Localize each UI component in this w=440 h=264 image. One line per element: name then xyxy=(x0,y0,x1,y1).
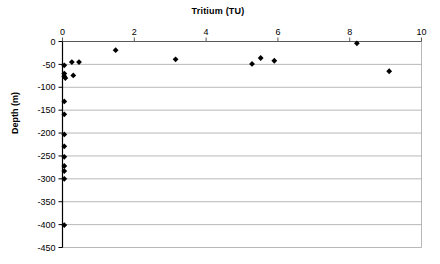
chart-container: Tritium (TU) Depth (m) 0246810 0-50-100-… xyxy=(0,0,440,264)
x-axis-tick-label: 8 xyxy=(347,27,352,37)
y-axis-tick-label: -400 xyxy=(37,220,55,230)
data-points-group xyxy=(61,40,392,228)
x-axis-tick-label: 6 xyxy=(275,27,280,37)
gridlines-group xyxy=(63,42,422,248)
y-axis-tick-label: -300 xyxy=(37,174,55,184)
x-axis-tick-label: 4 xyxy=(204,27,209,37)
y-axis-tick-label: -50 xyxy=(42,60,55,70)
scatter-plot: 0246810 0-50-100-150-200-250-300-350-400… xyxy=(0,0,440,264)
y-axis-tick-label: -350 xyxy=(37,197,55,207)
y-axis-ticks-group: 0-50-100-150-200-250-300-350-400-450 xyxy=(37,37,62,253)
y-axis-tick-label: -200 xyxy=(37,128,55,138)
data-point-marker xyxy=(386,68,392,74)
data-point-marker xyxy=(271,58,277,64)
y-axis-tick-label: -150 xyxy=(37,105,55,115)
data-point-marker xyxy=(173,56,179,62)
data-point-marker xyxy=(70,72,76,78)
data-point-marker xyxy=(113,47,119,53)
y-axis-tick-label: -250 xyxy=(37,151,55,161)
x-axis-tick-label: 10 xyxy=(416,27,426,37)
data-point-marker xyxy=(249,61,255,67)
data-point-marker xyxy=(258,55,264,61)
x-axis-tick-label: 0 xyxy=(60,27,65,37)
x-axis-ticks-group: 0246810 xyxy=(60,27,427,42)
y-axis-tick-label: -450 xyxy=(37,243,55,253)
y-axis-tick-label: 0 xyxy=(50,37,55,47)
y-axis-tick-label: -100 xyxy=(37,82,55,92)
x-axis-tick-label: 2 xyxy=(132,27,137,37)
axes-group xyxy=(63,42,422,248)
